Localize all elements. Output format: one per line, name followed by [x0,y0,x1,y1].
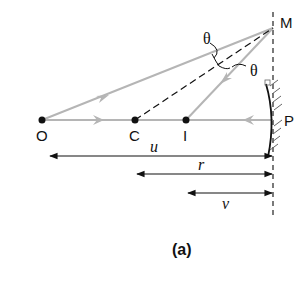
theta-label-2: θ [250,62,258,79]
label-C: C [129,127,140,144]
figure-caption: (a) [172,241,192,258]
label-M: M [280,14,293,31]
point-C [132,117,139,124]
point-O [39,117,46,124]
reflected-ray-MI [186,28,273,120]
distance-v-label: v [222,195,230,212]
distance-u-label: u [150,138,158,155]
distance-r-label: r [198,156,205,173]
incident-ray-OM [42,28,273,120]
label-O: O [36,127,48,144]
theta-label-1: θ [203,30,211,47]
mirror-diagram: θ θ O C I P M u r v (a) [0,0,308,283]
point-I [183,117,190,124]
label-P: P [284,112,294,129]
theta-leader-2 [232,64,246,67]
incident-ray-arrow-icon [96,95,109,103]
label-I: I [183,127,187,144]
angle-arc-2 [219,66,230,69]
